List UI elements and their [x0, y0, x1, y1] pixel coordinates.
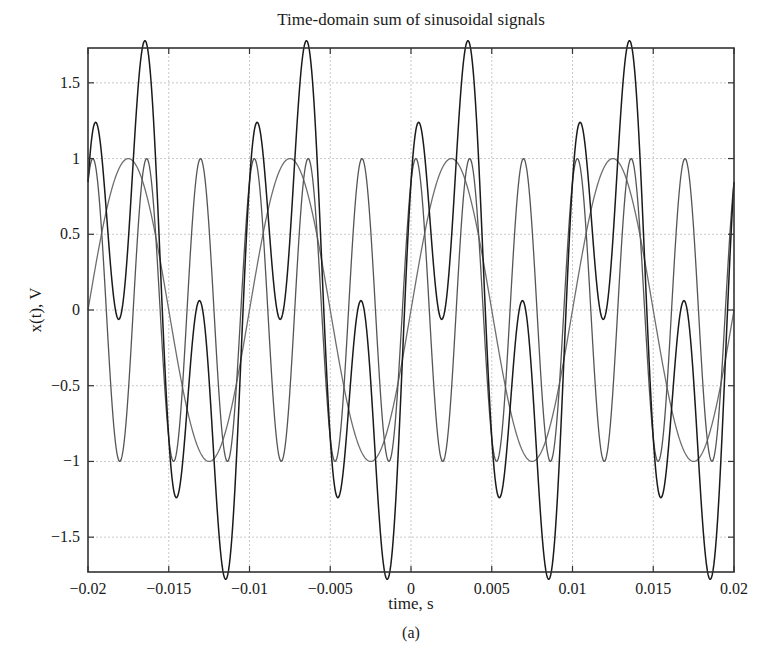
figure-caption: (a) [88, 624, 734, 642]
y-tick-labels: −1.5−1−0.500.511.5 [51, 74, 80, 545]
y-tick-label: −1 [63, 452, 80, 469]
chart-plot: −0.02−0.015−0.01−0.00500.0050.010.0150.0… [0, 0, 764, 665]
y-axis-label: x(t), V [26, 287, 46, 332]
y-tick-label: 1 [72, 150, 80, 167]
y-tick-label: −1.5 [51, 528, 80, 545]
x-axis-label: time, s [88, 594, 734, 614]
y-tick-label: 1.5 [60, 74, 80, 91]
y-tick-label: 0 [72, 301, 80, 318]
y-tick-label: 0.5 [60, 225, 80, 242]
y-tick-label: −0.5 [51, 377, 80, 394]
